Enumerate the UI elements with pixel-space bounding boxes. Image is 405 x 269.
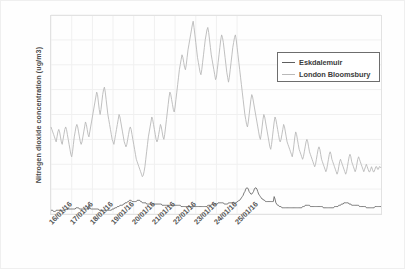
x-axis-ticks: 16/01/1617/01/1618/01/1619/01/1620/01/16… xyxy=(1,1,405,269)
legend-label-london-bloomsbury: London Bloomsbury xyxy=(299,70,370,79)
chart-legend: Eskdalemuir London Bloomsbury xyxy=(277,52,380,82)
legend-swatch-icon xyxy=(282,74,295,75)
chart-figure: Nitrogen dioxide concentration (ug/m3) 1… xyxy=(0,0,405,269)
legend-label-eskdalemuir: Eskdalemuir xyxy=(299,58,342,67)
legend-swatch-icon xyxy=(282,62,295,63)
legend-item-eskdalemuir: Eskdalemuir xyxy=(282,56,379,68)
legend-item-london-bloomsbury: London Bloomsbury xyxy=(282,68,379,80)
